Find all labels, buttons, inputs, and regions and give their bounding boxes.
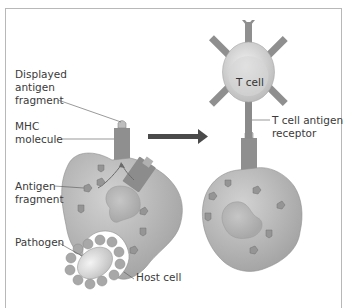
mhc-molecule-left <box>114 128 130 160</box>
label-pathogen: Pathogen <box>15 236 64 248</box>
label-displayed-1: Displayed <box>15 68 67 80</box>
label-mhc-1: MHC <box>15 120 39 132</box>
label-mhc-2: molecule <box>15 133 63 145</box>
label-tcr-2: receptor <box>272 127 317 139</box>
label-antigen-fragment-2: fragment <box>15 193 64 205</box>
label-displayed-2: antigen <box>15 81 55 93</box>
label-host-cell: Host cell <box>136 271 181 283</box>
label-t-cell: T cell <box>235 76 264 88</box>
t-cell-antigen-receptor <box>245 100 252 138</box>
label-tcr-1: T cell antigen <box>271 114 343 126</box>
host-cell-left <box>62 121 183 290</box>
host-cell-right <box>202 131 302 272</box>
label-antigen-fragment-1: Antigen <box>15 180 56 192</box>
label-displayed-3: fragment <box>15 94 64 106</box>
process-arrow <box>148 129 208 144</box>
